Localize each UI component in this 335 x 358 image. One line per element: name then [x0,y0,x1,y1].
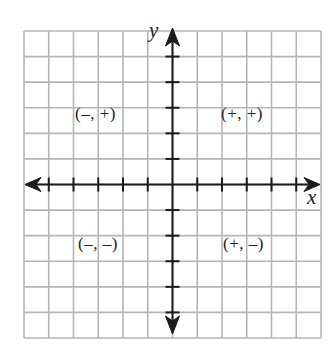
coordinate-grid-svg [0,0,335,358]
coordinate-plane: y x (–, +) (+, +) (–, –) (+, –) [0,0,335,358]
quadrant-2-label: (–, +) [75,104,116,124]
y-axis-label: y [149,18,158,43]
axes [25,28,320,334]
quadrant-1-label: (+, +) [221,104,263,124]
quadrant-4-label: (+, –) [223,234,264,254]
x-axis-label: x [307,185,316,210]
quadrant-3-label: (–, –) [78,234,118,254]
